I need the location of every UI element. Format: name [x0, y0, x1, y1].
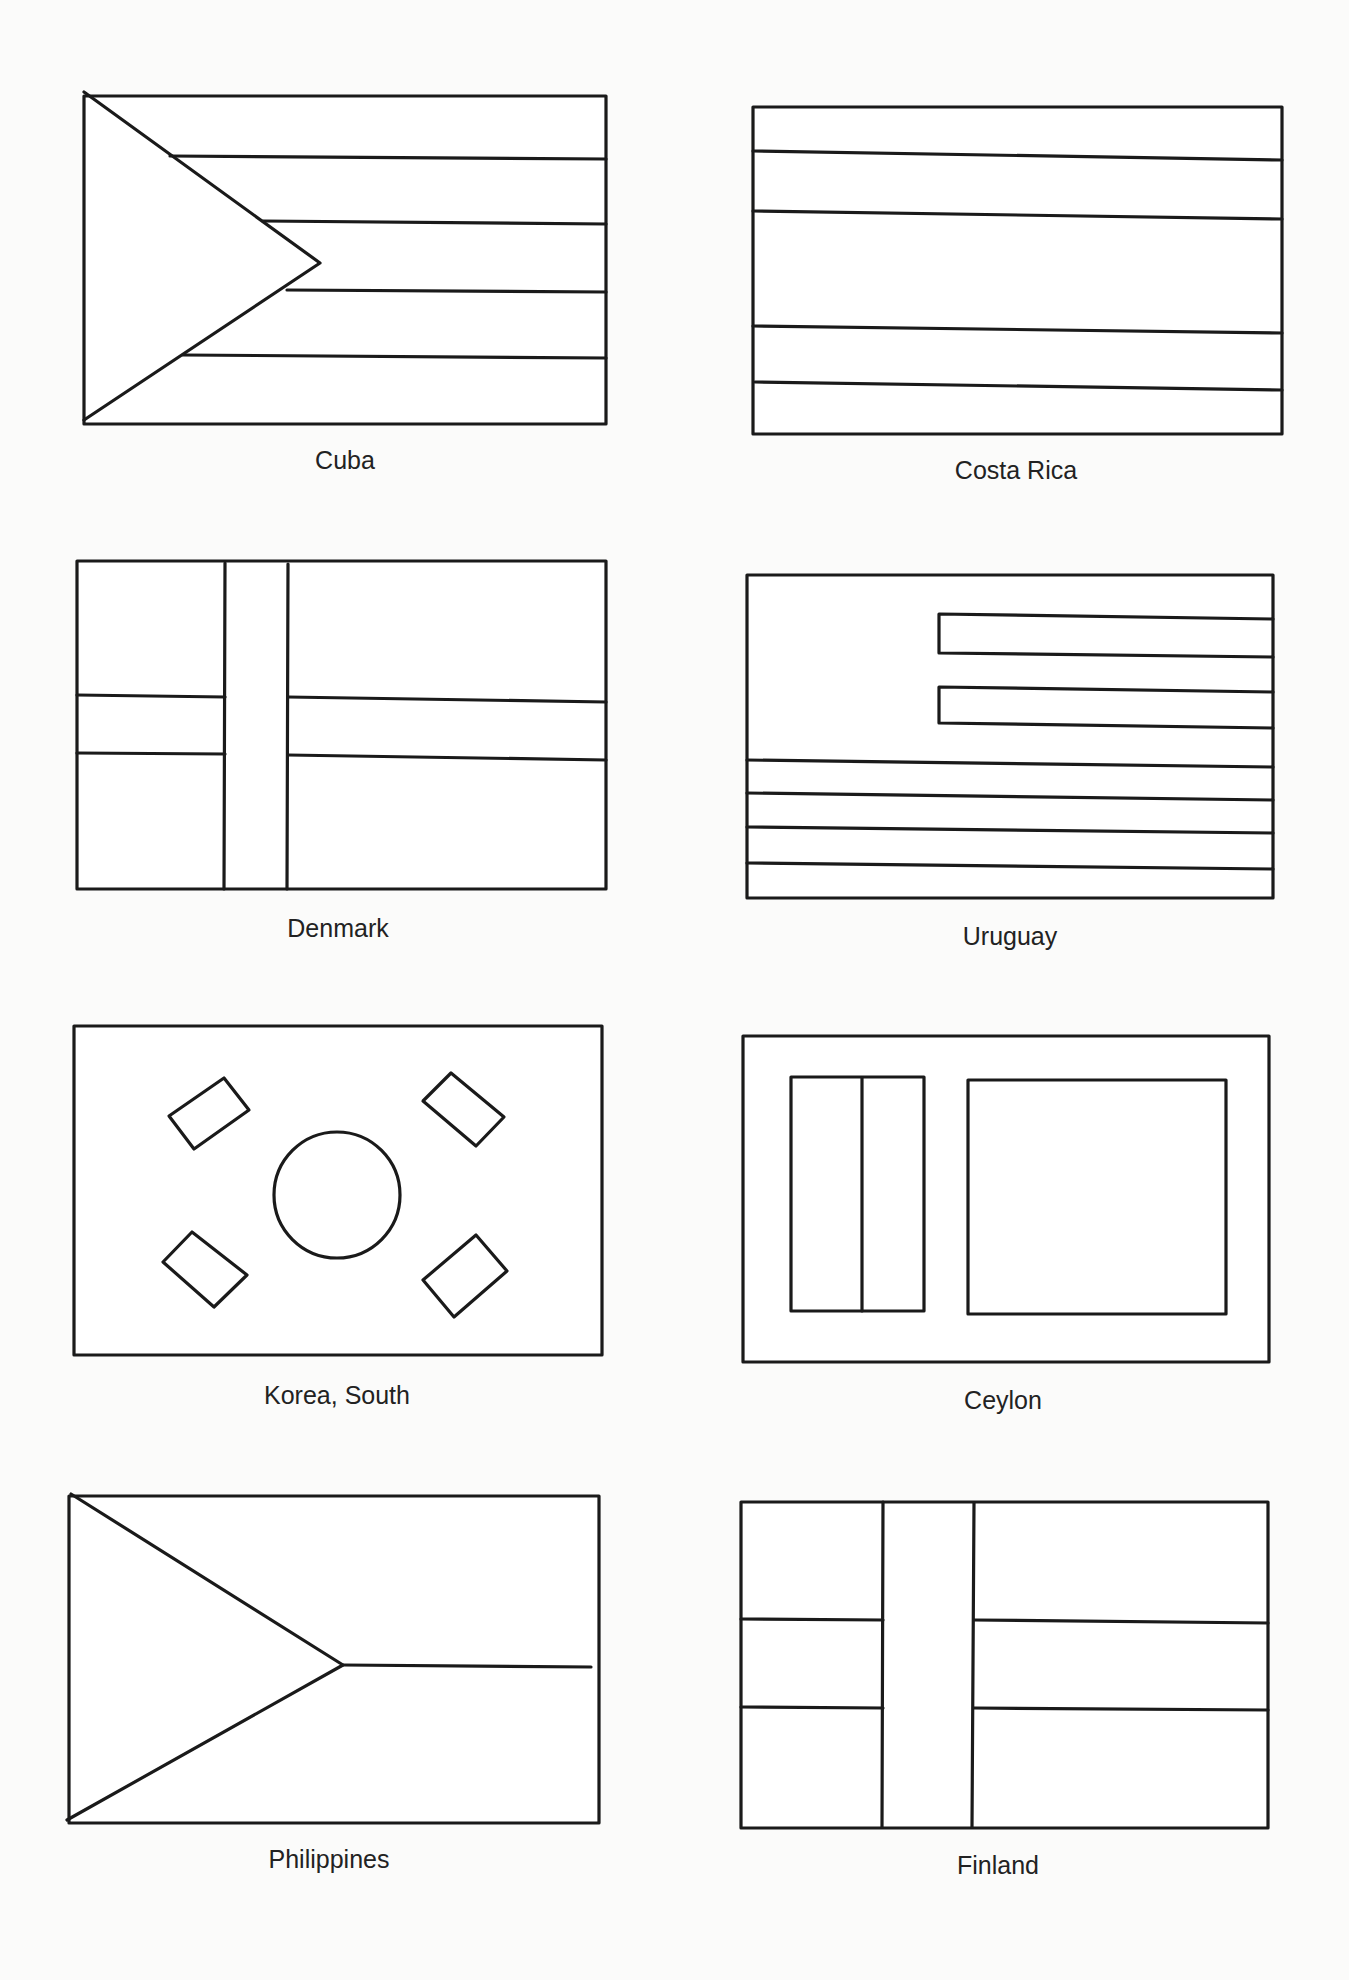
flag-line — [741, 1707, 883, 1708]
flag-border — [77, 561, 606, 889]
flag-line — [972, 1503, 974, 1827]
flag-label-denmark: Denmark — [287, 916, 388, 941]
flag-line — [343, 1665, 591, 1667]
flag-finland — [741, 1502, 1268, 1828]
flag-uruguay — [747, 575, 1273, 898]
flag-line — [77, 753, 225, 754]
flag-label-ceylon: Ceylon — [964, 1388, 1042, 1413]
flag-line — [287, 564, 288, 889]
flag-border — [84, 96, 606, 424]
flag-line — [974, 1708, 1268, 1710]
flag-border — [747, 575, 1273, 898]
flag-label-costa-rica: Costa Rica — [955, 458, 1077, 483]
flag-label-finland: Finland — [957, 1853, 1039, 1878]
flag-cuba — [84, 92, 606, 424]
flag-ceylon — [743, 1036, 1269, 1362]
flag-line — [882, 1502, 883, 1827]
flag-label-uruguay: Uruguay — [963, 924, 1058, 949]
flag-line — [287, 290, 606, 292]
flag-label-philippines: Philippines — [269, 1847, 390, 1872]
flag-korea-south — [74, 1026, 602, 1355]
flag-line — [77, 695, 225, 697]
flag-costa-rica — [753, 107, 1282, 434]
flag-coloring-page: Cuba Costa Rica Denmark Uruguay Korea, S… — [0, 0, 1349, 1980]
flag-border — [741, 1502, 1268, 1828]
flag-label-korea-south: Korea, South — [264, 1383, 410, 1408]
flag-line — [224, 563, 225, 889]
flag-label-cuba: Cuba — [315, 448, 375, 473]
flag-denmark — [77, 561, 606, 889]
flag-line — [741, 1619, 883, 1620]
flag-border — [74, 1026, 602, 1355]
flag-philippines — [67, 1494, 599, 1823]
flags-drawing — [0, 0, 1349, 1980]
